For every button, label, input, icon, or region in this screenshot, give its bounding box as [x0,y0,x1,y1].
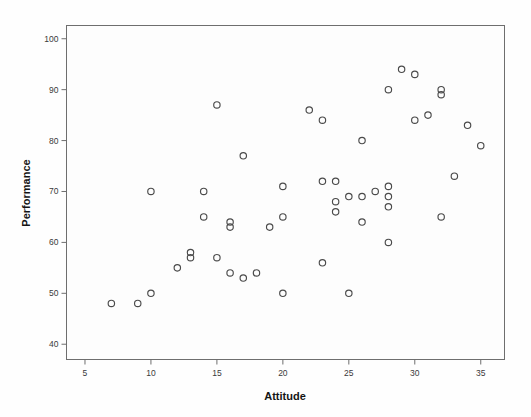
y-tick-label: 50 [49,288,59,298]
screenshot-root: 405060708090100 5101520253035 Attitude P… [0,0,531,417]
x-tick-label: 10 [146,368,156,378]
y-tick-label: 90 [49,85,59,95]
y-tick-label: 60 [49,237,59,247]
x-axis-label: Attitude [264,390,306,402]
x-tick-label: 25 [344,368,354,378]
plot-frame [67,26,505,360]
x-tick-label: 35 [476,368,486,378]
y-tick-label: 100 [44,34,58,44]
x-tick-label: 5 [83,368,88,378]
y-tick-label: 80 [49,136,59,146]
x-tick-label: 15 [212,368,222,378]
x-tick-label: 20 [278,368,288,378]
x-tick-label: 30 [410,368,420,378]
scatterplot-figure: 405060708090100 5101520253035 Attitude P… [0,0,531,417]
y-axis-label: Performance [20,159,32,226]
y-tick-label: 70 [49,186,59,196]
chart-canvas: 405060708090100 5101520253035 Attitude P… [0,0,531,417]
y-tick-label: 40 [49,339,59,349]
